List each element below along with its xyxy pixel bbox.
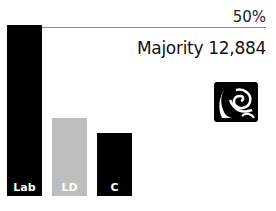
bar-ld: LD — [52, 118, 87, 196]
labour-rose-icon — [212, 80, 260, 124]
fifty-percent-line — [42, 27, 266, 28]
majority-label: Majority 12,884 — [137, 38, 266, 58]
bar-label-c: C — [97, 181, 132, 194]
constituency-result-chart: 50% Majority 12,884 Lab LD C — [0, 0, 276, 211]
bar-lab: Lab — [7, 25, 42, 196]
fifty-percent-label: 50% — [233, 8, 266, 26]
bar-label-lab: Lab — [7, 181, 42, 194]
bar-c: C — [97, 133, 132, 196]
bar-label-ld: LD — [52, 181, 87, 194]
